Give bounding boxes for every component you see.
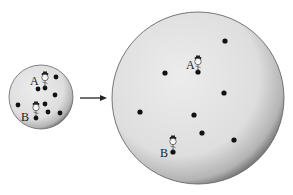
- label-b-large: B: [160, 146, 168, 160]
- large-galaxy-dot: [170, 149, 175, 154]
- small-galaxy-dot: [43, 86, 48, 91]
- large-galaxy-dot: [222, 38, 227, 43]
- label-a-small: A: [30, 74, 39, 88]
- expansion-arrow-icon: [80, 95, 107, 101]
- small-galaxy-dot: [43, 102, 48, 107]
- small-galaxy-dot: [58, 111, 63, 116]
- large-galaxy-dot: [221, 90, 226, 95]
- large-galaxy-dot: [191, 112, 196, 117]
- large-universe-disc: A B: [112, 12, 284, 184]
- small-galaxy-dot: [34, 116, 39, 121]
- label-b-small: B: [21, 110, 29, 124]
- large-galaxy-dot: [162, 70, 167, 75]
- expansion-diagram: A B A B: [0, 0, 293, 195]
- small-universe-disc: A B: [9, 65, 73, 129]
- small-galaxy-dot: [46, 110, 51, 115]
- small-galaxy-dot: [54, 75, 59, 80]
- label-a-large: A: [186, 58, 195, 72]
- large-galaxy-dot: [199, 130, 204, 135]
- large-galaxy-dot: [231, 137, 236, 142]
- large-galaxy-dot: [195, 69, 200, 74]
- large-galaxy-dot: [137, 109, 142, 114]
- small-galaxy-dot: [16, 103, 21, 108]
- small-galaxy-dot: [53, 93, 58, 98]
